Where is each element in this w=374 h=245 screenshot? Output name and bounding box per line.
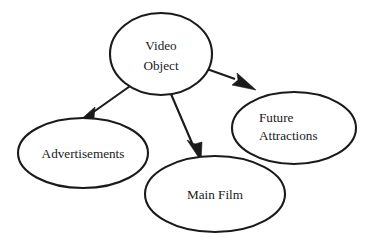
arrowhead-icon-future-attractions [232,73,256,90]
diagram-svg: Video Object Advertisements Main Film Fu… [0,0,374,245]
edge-video-object-to-future-attractions [207,69,256,90]
node-video-object-ellipse[interactable] [110,13,212,95]
node-advertisements[interactable]: Advertisements [18,118,148,188]
node-future-attractions-label-line1: Future [259,110,294,125]
node-video-object[interactable]: Video Object [110,13,212,95]
edge-video-object-to-advertisements [78,84,133,122]
node-main-film[interactable]: Main Film [145,156,285,232]
node-future-attractions[interactable]: Future Attractions [232,92,356,164]
edge-line-to-advertisements [92,84,133,113]
diagram-canvas: Video Object Advertisements Main Film Fu… [0,0,374,245]
edge-video-object-to-main-film [171,94,202,161]
node-video-object-label-line2: Object [143,58,178,73]
node-advertisements-label: Advertisements [42,146,125,161]
node-future-attractions-label-line2: Attractions [259,128,318,143]
node-video-object-label-line1: Video [145,38,177,53]
edge-line-to-future-attractions [207,69,235,79]
node-main-film-label: Main Film [187,187,244,202]
edge-line-to-main-film [171,94,192,143]
